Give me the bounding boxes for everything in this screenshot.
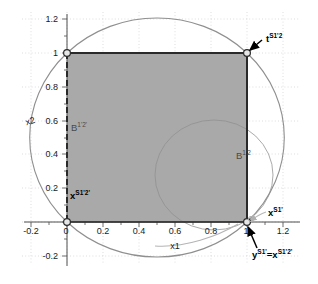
x-tick-label: 0.6 [169,226,182,236]
x-tick-label: 0.4 [133,226,146,236]
marker-point-t-s1-2 [244,50,251,57]
marker-point-0-1 [64,50,71,57]
marker-point-y-s1prime [244,219,251,226]
x-tick-label: 0 [63,226,68,236]
x-tick-label: 0.8 [205,226,218,236]
y-tick-label: 0.2 [45,183,58,193]
figure-root: -0.2 0 0.2 0.4 0.6 0.8 1 1.2 -0.2 0.2 0.… [0,0,318,284]
y-tick-label: 0.6 [45,116,58,126]
x-tick-label: 1.2 [277,226,290,236]
y-tick-label: 1 [53,48,58,58]
y-tick-label: 1.2 [45,14,58,24]
y-tick-label: 0.8 [45,82,58,92]
x-tick-label: 0.2 [97,226,110,236]
x-axis-title: x1 [170,241,180,251]
plot-canvas: -0.2 0 0.2 0.4 0.6 0.8 1 1.2 -0.2 0.2 0.… [0,0,318,284]
y-tick-label: 0.4 [45,149,58,159]
x-tick-label: -0.2 [23,226,39,236]
marker-point-x-s1-2prime [64,219,71,226]
y-tick-label: -0.2 [42,251,58,261]
unit-square-fill [67,53,247,222]
x-tick-label: 1 [243,226,248,236]
